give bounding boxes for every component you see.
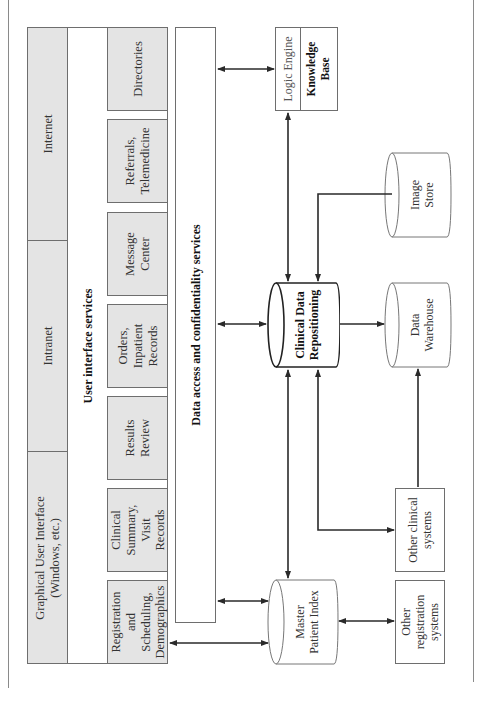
- connector-layer: [0, 0, 480, 708]
- arrow-cdr-otherclinical: [318, 370, 394, 530]
- arrow-imagestore-cdr: [318, 194, 392, 281]
